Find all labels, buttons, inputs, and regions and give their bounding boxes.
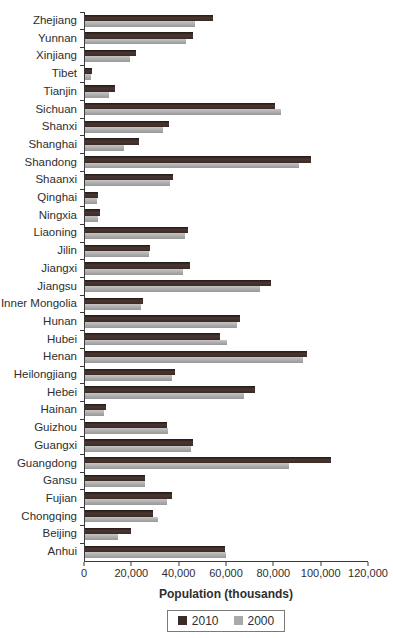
- bars-group: [84, 419, 368, 437]
- legend-swatch-2010: [178, 616, 187, 625]
- category-label: Liaoning: [0, 224, 84, 242]
- bar-2000-sichuan: [85, 109, 281, 115]
- bars-group: [84, 384, 368, 402]
- bar-2000-guizhou: [85, 428, 168, 434]
- legend-label-2010: 2010: [192, 614, 219, 628]
- bars-group: [84, 525, 368, 543]
- bar-row: Shaanxi: [0, 171, 393, 189]
- bar-2000-yunnan: [85, 39, 186, 45]
- x-axis-tick-label: 60,000: [209, 567, 243, 579]
- category-label: Jiangxi: [0, 260, 84, 278]
- bar-2000-jilin: [85, 251, 149, 257]
- x-axis-tick: [273, 562, 274, 566]
- bar-row: Jiangxi: [0, 260, 393, 278]
- bar-2000-beijing: [85, 534, 118, 540]
- bars-group: [84, 260, 368, 278]
- category-label: Shaanxi: [0, 171, 84, 189]
- bar-2000-zhejiang: [85, 21, 195, 27]
- x-axis-row: 020,00040,00060,00080,000100,000120,000: [0, 561, 393, 584]
- bar-row: Hunan: [0, 313, 393, 331]
- bar-row: Guizhou: [0, 419, 393, 437]
- bar-row: Beijing: [0, 525, 393, 543]
- bar-row: Qinghai: [0, 189, 393, 207]
- bar-2000-shanghai: [85, 145, 124, 151]
- bars-group: [84, 313, 368, 331]
- bar-2000-inner-mongolia: [85, 304, 141, 310]
- category-label: Sichuan: [0, 101, 84, 119]
- legend-swatch-2000: [234, 616, 243, 625]
- bar-2000-anhui: [85, 552, 226, 558]
- bars-group: [84, 154, 368, 172]
- plot-area: ZhejiangYunnanXinjiangTibetTianjinSichua…: [0, 12, 393, 561]
- bar-2000-hunan: [85, 322, 237, 328]
- bars-group: [84, 136, 368, 154]
- x-axis-tick-label: 80,000: [257, 567, 291, 579]
- x-axis-tick-label: 0: [81, 567, 87, 579]
- bars-group: [84, 189, 368, 207]
- bar-2000-gansu: [85, 481, 145, 487]
- category-label: Tianjin: [0, 83, 84, 101]
- bar-2000-fujian: [85, 499, 167, 505]
- bars-group: [84, 437, 368, 455]
- bar-row: Anhui: [0, 543, 393, 561]
- category-label: Beijing: [0, 525, 84, 543]
- bars-group: [84, 401, 368, 419]
- population-bar-chart: ZhejiangYunnanXinjiangTibetTianjinSichua…: [0, 0, 393, 632]
- bar-2000-shaanxi: [85, 180, 170, 186]
- x-axis-tick-label: 20,000: [115, 567, 149, 579]
- bars-group: [84, 508, 368, 526]
- x-axis-tick: [226, 562, 227, 566]
- category-label: Hebei: [0, 384, 84, 402]
- legend: 20102000: [167, 610, 285, 632]
- bars-group: [84, 348, 368, 366]
- x-axis-tick: [131, 562, 132, 566]
- bars-group: [84, 171, 368, 189]
- x-axis-title-row: Population (thousands): [0, 587, 393, 601]
- bar-row: Zhejiang: [0, 12, 393, 30]
- category-label: Yunnan: [0, 30, 84, 48]
- legend-item-2010: 2010: [178, 614, 219, 628]
- bar-2000-heilongjiang: [85, 375, 172, 381]
- category-label: Shanxi: [0, 118, 84, 136]
- category-label: Guangdong: [0, 455, 84, 473]
- bars-group: [84, 366, 368, 384]
- bar-row: Guangxi: [0, 437, 393, 455]
- bar-row: Gansu: [0, 472, 393, 490]
- bar-row: Hubei: [0, 331, 393, 349]
- bars-group: [84, 242, 368, 260]
- category-label: Guizhou: [0, 419, 84, 437]
- bar-2000-hebei: [85, 393, 244, 399]
- bar-2000-guangxi: [85, 446, 191, 452]
- bars-group: [84, 101, 368, 119]
- bars-group: [84, 455, 368, 473]
- bars-group: [84, 12, 368, 30]
- category-label: Inner Mongolia: [0, 295, 84, 313]
- bar-row: Henan: [0, 348, 393, 366]
- x-axis-tick: [84, 562, 85, 566]
- legend-label-2000: 2000: [248, 614, 275, 628]
- x-axis-tick: [320, 562, 321, 566]
- axis-spacer: [0, 610, 84, 632]
- bar-2000-xinjiang: [85, 56, 130, 62]
- bar-row: Inner Mongolia: [0, 295, 393, 313]
- bar-row: Heilongjiang: [0, 366, 393, 384]
- bar-2000-tibet: [85, 74, 91, 80]
- bars-group: [84, 65, 368, 83]
- bar-2000-qinghai: [85, 198, 97, 204]
- bar-2000-hubei: [85, 340, 227, 346]
- bar-row: Shanxi: [0, 118, 393, 136]
- bar-2000-tianjin: [85, 92, 109, 98]
- category-label: Hainan: [0, 401, 84, 419]
- bar-2000-hainan: [85, 410, 104, 416]
- bars-group: [84, 331, 368, 349]
- bar-row: Sichuan: [0, 101, 393, 119]
- x-axis-tick-label: 100,000: [301, 567, 341, 579]
- category-label: Zhejiang: [0, 12, 84, 30]
- bar-row: Xinjiang: [0, 47, 393, 65]
- category-label: Shandong: [0, 154, 84, 172]
- category-label: Chongqing: [0, 508, 84, 526]
- bars-group: [84, 278, 368, 296]
- bars-group: [84, 47, 368, 65]
- bar-2000-shanxi: [85, 127, 163, 133]
- bar-2000-jiangxi: [85, 269, 183, 275]
